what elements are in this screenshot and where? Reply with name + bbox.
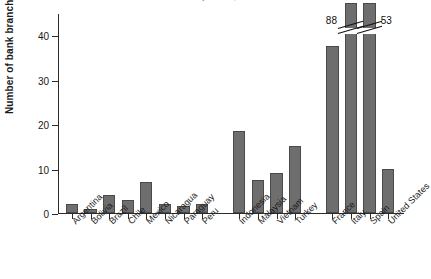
chart-title: Bank branches per 100,000 adults [0,0,415,1]
x-axis-label-group: ArgentinaBoliviaBrazilChileMexicoNicarag… [58,219,404,279]
bar-series [58,14,404,213]
bar-italy [345,3,357,213]
y-tick-label: 0 [43,209,49,220]
y-tick-label: 40 [38,31,49,42]
bar-indonesia [233,131,245,213]
y-tick-label: 20 [38,120,49,131]
axis-break-mask [361,28,377,34]
bar-spain [363,3,375,213]
y-tick [52,214,58,215]
y-tick-label: 30 [38,75,49,86]
y-tick-label: 10 [38,164,49,175]
y-axis-title: Number of bank branches [4,0,15,114]
value-label-italy: 88 [326,15,337,26]
value-label-spain: 53 [381,15,392,26]
axis-break-mask [343,28,359,34]
plot-area: 010203040 8853 [58,14,404,214]
bar-france [326,46,338,213]
